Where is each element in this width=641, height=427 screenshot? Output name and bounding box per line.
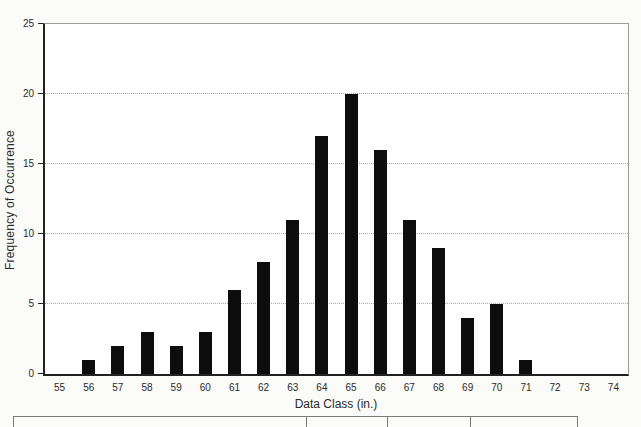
- x-tick-label-62: 62: [250, 382, 278, 393]
- x-tick-label-69: 69: [454, 382, 482, 393]
- y-tick-label-20: 20: [4, 88, 34, 100]
- y-tick-label-10: 10: [4, 228, 34, 240]
- partial-table: [13, 416, 578, 427]
- gridline-10: [45, 233, 628, 234]
- y-tick-label-25: 25: [4, 18, 34, 30]
- bar-71: [519, 360, 532, 374]
- partial-table-divider: [306, 417, 307, 427]
- x-tick-label-70: 70: [483, 382, 511, 393]
- x-tick-label-57: 57: [104, 382, 132, 393]
- x-axis-labels: 5556575859606162636465666768697071727374: [45, 382, 628, 396]
- x-tick-label-66: 66: [366, 382, 394, 393]
- x-tick-label-68: 68: [425, 382, 453, 393]
- gridline-5: [45, 303, 628, 304]
- y-tick-label-15: 15: [4, 158, 34, 170]
- x-tick-label-58: 58: [133, 382, 161, 393]
- bar-66: [374, 150, 387, 374]
- x-tick-label-63: 63: [279, 382, 307, 393]
- y-tick-label-0: 0: [4, 368, 34, 380]
- x-tick-label-72: 72: [541, 382, 569, 393]
- x-tick-label-65: 65: [337, 382, 365, 393]
- bar-65: [345, 94, 358, 374]
- x-tick-label-71: 71: [512, 382, 540, 393]
- bar-63: [286, 220, 299, 374]
- gridline-15: [45, 163, 628, 164]
- x-axis-title: Data Class (in.): [43, 397, 629, 411]
- bar-58: [141, 332, 154, 374]
- x-tick-label-73: 73: [570, 382, 598, 393]
- x-tick-label-64: 64: [308, 382, 336, 393]
- x-tick-label-74: 74: [599, 382, 627, 393]
- bar-62: [257, 262, 270, 374]
- bar-60: [199, 332, 212, 374]
- bar-56: [82, 360, 95, 374]
- x-tick-label-67: 67: [395, 382, 423, 393]
- x-tick-label-60: 60: [191, 382, 219, 393]
- x-tick-label-56: 56: [75, 382, 103, 393]
- y-tick-label-5: 5: [4, 298, 34, 310]
- y-axis-labels: 0510152025: [0, 23, 43, 376]
- x-tick-label-55: 55: [46, 382, 74, 393]
- bar-68: [432, 248, 445, 374]
- x-tick-label-59: 59: [162, 382, 190, 393]
- gridline-20: [45, 93, 628, 94]
- partial-table-divider: [387, 417, 388, 427]
- bar-57: [111, 346, 124, 374]
- x-tick-label-61: 61: [220, 382, 248, 393]
- bar-69: [461, 318, 474, 374]
- bar-70: [490, 304, 503, 374]
- frequency-histogram: Frequency of Occurrence 0510152025 55565…: [0, 0, 641, 415]
- partial-table-divider: [470, 417, 471, 427]
- bar-59: [170, 346, 183, 374]
- plot-area: [43, 23, 629, 376]
- scanned-figure-page: Frequency of Occurrence 0510152025 55565…: [0, 0, 641, 427]
- bar-67: [403, 220, 416, 374]
- bar-64: [315, 136, 328, 374]
- bar-61: [228, 290, 241, 374]
